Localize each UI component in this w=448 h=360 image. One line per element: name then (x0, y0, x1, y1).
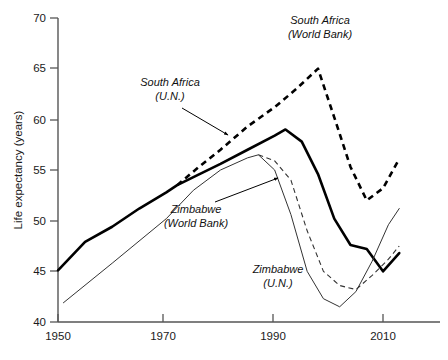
label-zimbabwe-un-line2: (U.N.) (263, 277, 293, 289)
label-south-africa-un-line1: South Africa (140, 76, 200, 88)
series-south-africa-un (58, 129, 399, 271)
y-tick-label-60: 60 (33, 114, 46, 126)
y-axis-title: Life expectancy (years) (12, 110, 24, 229)
y-tick-label-70: 70 (33, 12, 46, 24)
leader-zimbabwe-world-bank (215, 178, 278, 202)
label-zimbabwe-world-bank-line2: (World Bank) (164, 217, 229, 229)
x-tick-label-1970: 1970 (150, 330, 176, 342)
label-south-africa-un-line2: (U.N.) (155, 90, 185, 102)
series-group (58, 69, 399, 307)
life-expectancy-chart: 70 65 60 55 50 45 40 1950 1970 1990 2010… (0, 0, 448, 360)
x-axis-ticks (58, 314, 383, 322)
y-tick-label-65: 65 (33, 62, 46, 74)
series-zimbabwe-un (63, 155, 399, 307)
label-zimbabwe-un-line1: Zimbabwe (252, 263, 304, 275)
x-tick-label-1950: 1950 (45, 330, 71, 342)
label-south-africa-world-bank-line1: South Africa (290, 14, 350, 26)
x-tick-label-1990: 1990 (260, 330, 286, 342)
y-tick-label-40: 40 (33, 316, 46, 328)
x-tick-label-2010: 2010 (370, 330, 396, 342)
y-tick-label-50: 50 (33, 215, 46, 227)
y-axis-ticks (50, 18, 58, 322)
y-tick-label-55: 55 (33, 164, 46, 176)
y-tick-label-45: 45 (33, 265, 46, 277)
chart-canvas: 70 65 60 55 50 45 40 1950 1970 1990 2010… (0, 0, 448, 360)
label-south-africa-world-bank-line2: (World Bank) (288, 28, 353, 40)
label-zimbabwe-world-bank-line1: Zimbabwe (170, 203, 222, 215)
series-south-africa-world-bank (177, 69, 399, 201)
leader-south-africa-un (182, 108, 228, 135)
